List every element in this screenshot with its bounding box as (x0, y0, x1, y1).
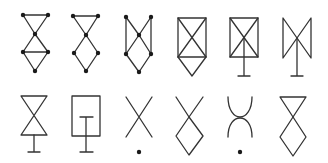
symbol-grid (0, 0, 328, 163)
symbol-5-crossed-rect-stem (230, 18, 258, 76)
symbol-2-graph (71, 14, 100, 73)
symbol-8-rect-inner-stem (72, 96, 100, 152)
symbol-9-x-dot (126, 97, 152, 154)
symbol-1-graph (21, 13, 50, 73)
symbol-12-triangle-diamond (280, 97, 306, 156)
symbol-grid-svg (0, 0, 328, 163)
symbol-10-x-diamond (176, 97, 203, 155)
symbol-3-graph (124, 15, 153, 74)
symbol-6-bowtie-stem (283, 18, 311, 76)
symbol-7-hourglass-stem (21, 96, 47, 152)
symbol-4-crossed-rect-triangle (178, 18, 206, 76)
symbol-11-arcs-dot (228, 97, 252, 154)
